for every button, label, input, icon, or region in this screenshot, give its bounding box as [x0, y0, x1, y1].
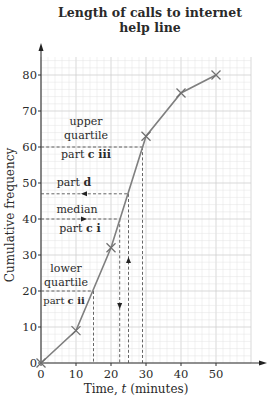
- chart: Length of calls to internet help line 01…: [0, 0, 271, 403]
- upper-quartile-label-2: quartile: [64, 129, 108, 142]
- chart-title-line2: help line: [119, 20, 180, 35]
- cumulative-frequency-chart: Length of calls to internet help line 01…: [0, 0, 271, 403]
- upper-quartile-part: part c iii: [61, 148, 111, 161]
- y-tick-label: 40: [22, 212, 37, 226]
- x-axis-arrow-icon: [259, 361, 267, 366]
- y-axis-arrow-icon: [39, 43, 44, 51]
- lower-quartile-part: part c ii: [43, 295, 85, 306]
- lower-quartile-label-1: lower: [50, 262, 82, 275]
- y-tick-label: 10: [22, 320, 37, 334]
- x-tick-label: 30: [139, 367, 154, 381]
- y-tick-label: 20: [22, 284, 37, 298]
- y-tick-label: 70: [22, 104, 37, 118]
- part-d-up-arrow-icon: [126, 257, 131, 263]
- part-d-label: part d: [57, 176, 92, 189]
- x-tick-label: 0: [37, 367, 44, 381]
- median-part: part c i: [59, 222, 101, 235]
- lower-quartile-label-2: quartile: [44, 276, 88, 289]
- x-axis-label: Time, t (minutes): [84, 382, 189, 396]
- x-ticks: 01020304050: [37, 363, 223, 381]
- annotations: upper quartile part c iii part d median …: [43, 115, 111, 306]
- upper-quartile-label-1: upper: [70, 115, 104, 128]
- y-ticks: 01020304050607080: [22, 68, 41, 370]
- x-tick-label: 10: [69, 367, 84, 381]
- part-d-left-arrow-icon: [81, 191, 87, 196]
- y-tick-label: 80: [22, 68, 37, 82]
- x-tick-label: 40: [174, 367, 189, 381]
- chart-title-line1: Length of calls to internet: [58, 5, 242, 20]
- y-axis-label: Cumulative frequency: [3, 148, 17, 283]
- y-tick-label: 60: [22, 140, 37, 154]
- median-right-arrow-icon: [81, 217, 87, 222]
- y-tick-label: 50: [22, 176, 37, 190]
- x-tick-label: 20: [104, 367, 119, 381]
- y-tick-label: 0: [30, 356, 37, 370]
- x-tick-label: 50: [209, 367, 224, 381]
- median-label: median: [56, 203, 97, 216]
- y-tick-label: 30: [22, 248, 37, 262]
